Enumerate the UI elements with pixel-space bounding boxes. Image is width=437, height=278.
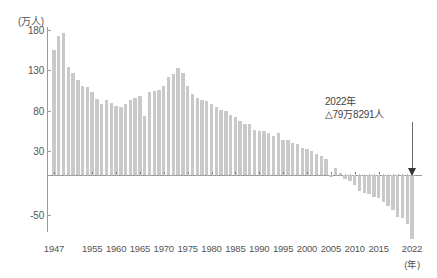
x-axis-minor-tick <box>197 174 198 176</box>
bar <box>67 67 70 175</box>
x-axis-minor-tick <box>340 174 341 176</box>
x-axis-minor-tick <box>107 174 108 176</box>
bar <box>176 68 179 175</box>
x-axis-minor-tick <box>135 174 136 176</box>
x-axis-minor-tick <box>250 174 251 176</box>
x-axis-minor-tick <box>145 174 146 176</box>
bar <box>95 99 98 175</box>
bar <box>363 175 366 193</box>
highlight-year-label: 2022年 <box>325 96 384 109</box>
x-axis-minor-tick <box>212 174 213 176</box>
x-axis-minor-tick <box>149 174 150 176</box>
x-axis-tick-label: 2005 <box>321 243 341 254</box>
x-axis-minor-tick <box>126 174 127 176</box>
y-axis-tick-label: 80 <box>33 105 44 116</box>
bar <box>71 73 74 175</box>
x-axis-minor-tick <box>307 174 308 176</box>
bar <box>119 107 122 175</box>
x-axis-minor-tick <box>278 174 279 176</box>
y-axis-tick-label: 180 <box>28 25 44 36</box>
bar <box>401 175 404 218</box>
bar <box>367 175 370 194</box>
x-axis-minor-tick <box>240 174 241 176</box>
x-axis-minor-tick <box>231 174 232 176</box>
bar <box>205 101 208 175</box>
x-axis-minor-tick <box>264 174 265 176</box>
x-axis-minor-tick <box>140 174 141 176</box>
bar <box>157 90 160 175</box>
x-axis-tick-label: 1985 <box>225 243 245 254</box>
x-axis-minor-tick <box>202 174 203 176</box>
bar <box>277 133 280 175</box>
x-axis-minor-tick <box>254 174 255 176</box>
bar <box>90 92 93 175</box>
x-axis-tick-label: 1995 <box>273 243 293 254</box>
x-axis-tick-label: 1970 <box>154 243 174 254</box>
x-axis-minor-tick <box>336 174 337 176</box>
bar <box>386 175 389 206</box>
bar <box>320 156 323 175</box>
x-axis-minor-tick <box>245 174 246 176</box>
bar <box>253 130 256 175</box>
bar <box>114 106 117 175</box>
x-axis-minor-tick <box>355 174 356 176</box>
bar <box>406 175 409 224</box>
y-axis-tick-mark <box>47 215 51 216</box>
annotation-leader-line <box>412 122 413 170</box>
x-axis-tick-label: 2015 <box>368 243 388 254</box>
bar <box>286 140 289 175</box>
y-axis-tick-mark <box>47 111 51 112</box>
x-axis-minor-tick <box>207 174 208 176</box>
bar <box>181 73 184 175</box>
x-axis-minor-tick <box>345 174 346 176</box>
x-axis-minor-tick <box>379 174 380 176</box>
x-axis-minor-tick <box>274 174 275 176</box>
x-axis-minor-tick <box>188 174 189 176</box>
x-axis-minor-tick <box>269 174 270 176</box>
x-axis-tick-label: 1980 <box>201 243 221 254</box>
annotation-arrow-icon <box>408 168 416 176</box>
y-axis-tick-mark <box>47 30 51 31</box>
x-axis-minor-tick <box>92 174 93 176</box>
bar <box>57 36 60 175</box>
bar <box>162 86 165 175</box>
x-axis-minor-tick <box>216 174 217 176</box>
x-axis-minor-tick <box>359 174 360 176</box>
x-axis-minor-tick <box>326 174 327 176</box>
x-axis-minor-tick <box>78 174 79 176</box>
x-axis-minor-tick <box>164 174 165 176</box>
bar <box>358 175 361 191</box>
bar <box>86 87 89 175</box>
x-axis-minor-tick <box>178 174 179 176</box>
bar <box>143 116 146 175</box>
bar <box>372 175 375 197</box>
x-axis-minor-tick <box>235 174 236 176</box>
bar <box>167 77 170 175</box>
x-axis-minor-tick <box>283 174 284 176</box>
y-axis-tick-label: 30 <box>33 145 44 156</box>
x-axis-minor-tick <box>331 174 332 176</box>
x-axis-minor-tick <box>159 174 160 176</box>
x-axis-minor-tick <box>83 174 84 176</box>
bar <box>324 159 327 175</box>
bar <box>191 94 194 175</box>
bar <box>200 100 203 175</box>
x-axis-minor-tick <box>97 174 98 176</box>
y-axis-tick-label: -50 <box>30 210 44 221</box>
x-axis-minor-tick <box>68 174 69 176</box>
x-axis-minor-tick <box>59 174 60 176</box>
x-axis-minor-tick <box>364 174 365 176</box>
bar <box>291 143 294 175</box>
x-axis-minor-tick <box>226 174 227 176</box>
highlight-annotation: 2022年 △79万8291人 <box>325 96 384 121</box>
x-axis-minor-tick <box>111 174 112 176</box>
x-axis-tick-label: 2010 <box>345 243 365 254</box>
x-axis-minor-tick <box>312 174 313 176</box>
x-axis-minor-tick <box>302 174 303 176</box>
bar <box>138 96 141 175</box>
y-axis-tick-mark <box>47 70 51 71</box>
bar <box>410 175 413 239</box>
x-axis-minor-tick <box>173 174 174 176</box>
bar <box>248 124 251 175</box>
x-axis-minor-tick <box>121 174 122 176</box>
